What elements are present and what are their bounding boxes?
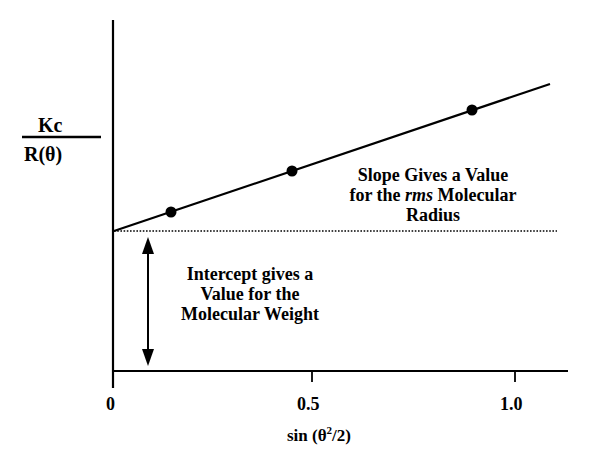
y-label-numerator: Kc [38,115,62,135]
intercept-double-arrow [142,237,154,366]
x-tick-label-05: 0.5 [297,394,320,414]
y-label-denominator: R(θ) [24,144,62,164]
intercept-annotation-line1: Intercept gives a [159,264,341,284]
intercept-annotation-line3: Molecular Weight [159,304,341,324]
x-axis-label-post: /2) [332,426,351,445]
data-point [166,207,177,218]
x-tick-label-0: 0 [106,394,115,414]
x-axis-label: sin (θ2/2) [287,426,351,446]
slope-annotation-line2: for the rms Molecular [318,185,548,205]
x-axis-label-pre: sin (θ [287,426,327,445]
slope-annotation: Slope Gives a Value for the rms Molecula… [318,165,548,225]
slope-annotation-line3: Radius [318,205,548,225]
x-tick-label-10: 1.0 [500,394,523,414]
slope-annotation-line1: Slope Gives a Value [318,165,548,185]
data-point [287,166,298,177]
intercept-annotation-line2: Value for the [159,284,341,304]
data-point [467,105,478,116]
intercept-annotation: Intercept gives a Value for the Molecula… [159,264,341,324]
